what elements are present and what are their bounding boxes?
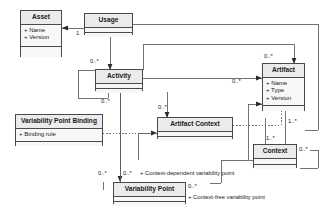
class-artifact-context-title: Artifact Context <box>158 118 232 132</box>
class-usage-operations <box>85 32 132 37</box>
class-usage[interactable]: Usage <box>84 13 133 35</box>
class-variability-point-title: Variability Point <box>114 183 185 197</box>
mult-context-self: 0..* <box>299 146 308 152</box>
role-context-free: + Context-free variability point <box>188 194 265 200</box>
mult-vp-mid: 0..* <box>123 170 132 176</box>
class-activity-title: Activity <box>96 70 142 84</box>
class-vpb-title: Variability Point Binding <box>16 115 102 129</box>
mult-vp-right: 0..* <box>188 183 197 189</box>
mult-artifact-context-top: 0..* <box>158 104 167 110</box>
class-asset[interactable]: Asset + Name + Version <box>20 10 62 57</box>
class-artifact-attr-0: + Name <box>266 80 301 88</box>
class-asset-attributes: + Name + Version <box>21 25 61 46</box>
class-artifact-operations <box>263 105 304 111</box>
class-artifact-context-operations <box>158 136 232 141</box>
class-variability-point[interactable]: Variability Point <box>113 182 186 204</box>
mult-activity-self: 0..* <box>101 98 110 104</box>
class-asset-attr-0: + Name <box>24 27 58 35</box>
class-artifact-attr-2: + Version <box>266 95 301 103</box>
edge-ac-artifact-dashed <box>233 110 281 125</box>
edge-context-self <box>300 150 318 168</box>
class-activity-operations <box>96 88 142 93</box>
mult-artifact-context-count: 1..* <box>288 118 297 124</box>
class-vpb-attributes: + Binding rule <box>16 129 102 141</box>
class-artifact-attr-1: + Type <box>266 87 301 95</box>
role-context-dependent: + Context-dependent variability point <box>140 170 234 176</box>
class-variability-point-binding[interactable]: Variability Point Binding + Binding rule <box>15 114 103 146</box>
class-artifact-title: Artifact <box>263 64 304 78</box>
uml-diagram-canvas: Asset + Name + Version Usage Activity Ar… <box>0 0 324 207</box>
mult-asset-usage: 1 <box>76 30 79 36</box>
class-context-title: Context <box>254 145 296 159</box>
class-variability-point-operations <box>114 201 185 206</box>
class-context-operations <box>254 164 296 169</box>
class-asset-title: Asset <box>21 11 61 25</box>
class-vpb-attr-0: + Binding rule <box>19 131 99 139</box>
mult-artifact-left: 0..* <box>232 78 241 84</box>
mult-vp-left: 0..* <box>98 170 107 176</box>
class-context[interactable]: Context <box>253 144 297 168</box>
class-asset-attr-1: + Version <box>24 34 58 42</box>
mult-artifact-top: 0..* <box>264 53 273 59</box>
mult-context-to-artifact: 1..* <box>266 135 275 141</box>
class-artifact-context[interactable]: Artifact Context <box>157 117 233 139</box>
class-artifact-attributes: + Name + Type + Version <box>263 78 304 105</box>
class-vpb-operations <box>16 141 102 146</box>
class-asset-operations <box>21 46 61 57</box>
mult-usage-activity: 0..* <box>90 58 99 64</box>
class-artifact[interactable]: Artifact + Name + Type + Version <box>262 63 305 111</box>
class-usage-title: Usage <box>85 14 132 28</box>
class-activity[interactable]: Activity <box>95 69 143 91</box>
